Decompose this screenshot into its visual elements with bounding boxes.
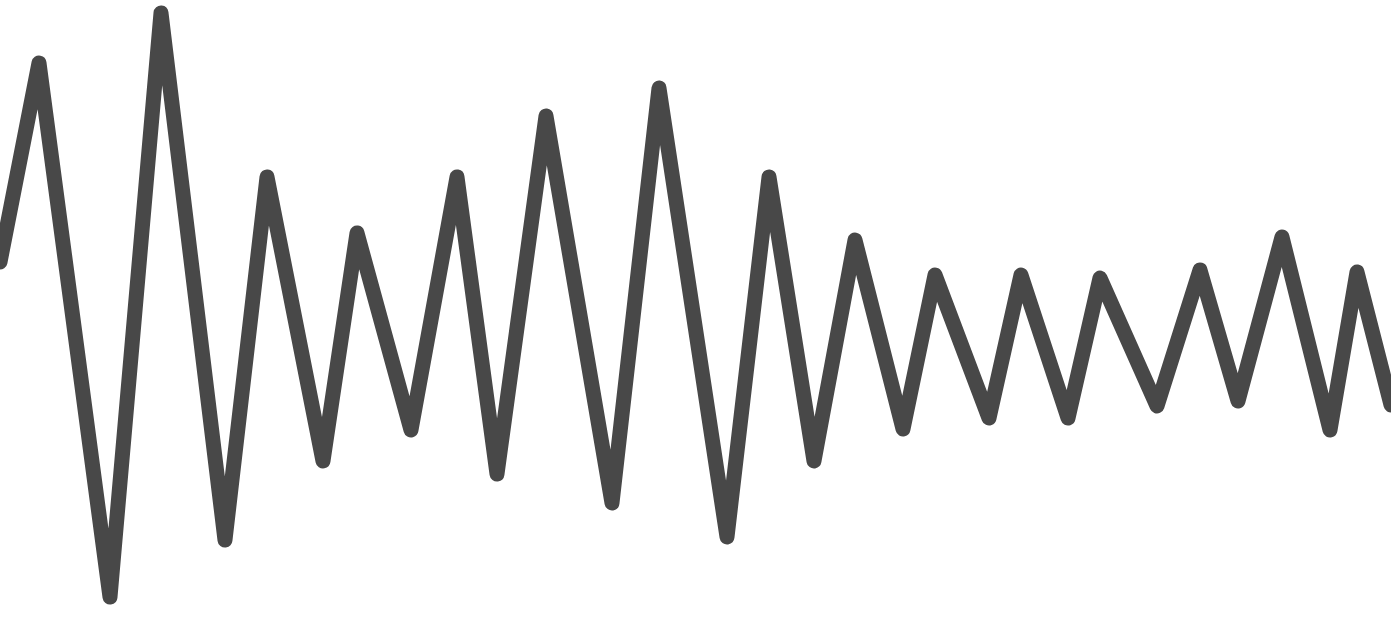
zigzag-line — [0, 13, 1391, 597]
waveform-graphic — [0, 0, 1391, 639]
waveform-canvas — [0, 0, 1391, 639]
